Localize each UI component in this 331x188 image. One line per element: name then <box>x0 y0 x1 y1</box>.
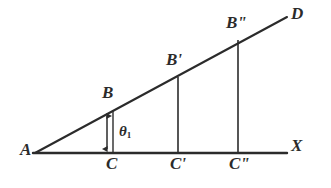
geometry-diagram: A B B' B" C C' C" D X θ1 <box>0 0 331 188</box>
label-point-c: C <box>106 155 117 172</box>
label-point-a: A <box>20 141 31 158</box>
label-point-b-prime: B' <box>166 51 182 68</box>
theta-glyph: θ <box>119 123 127 139</box>
label-point-d: D <box>291 5 303 22</box>
label-point-b: B <box>102 84 113 101</box>
label-point-c-prime: C' <box>170 155 186 172</box>
diagram-canvas <box>0 0 331 188</box>
label-point-c-double-prime: C" <box>229 155 250 172</box>
label-angle-theta: θ1 <box>119 124 131 139</box>
label-axis-x: X <box>291 137 302 154</box>
label-point-b-double-prime: B" <box>226 14 247 31</box>
theta-subscript: 1 <box>127 130 132 140</box>
ray-ad <box>35 17 287 153</box>
